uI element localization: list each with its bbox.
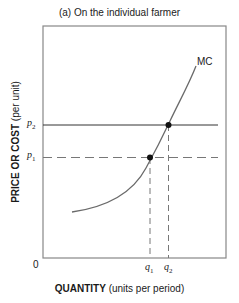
x-axis-label-unit: (units per period) bbox=[109, 283, 185, 294]
origin-label: 0 bbox=[33, 259, 39, 270]
y-axis-label-unit: (per unit) bbox=[10, 81, 21, 121]
p1-tick-label: p1 bbox=[27, 149, 36, 163]
p2-tick-label: p2 bbox=[27, 117, 36, 131]
point-p2-q2 bbox=[166, 122, 172, 128]
q1-subscript: 1 bbox=[150, 267, 154, 275]
x-axis-label-bold: QUANTITY bbox=[55, 283, 106, 294]
p2-subscript: 2 bbox=[32, 123, 36, 131]
q1-tick-label: q1 bbox=[145, 261, 154, 275]
p1-subscript: 1 bbox=[32, 155, 36, 163]
chart-plot bbox=[0, 0, 239, 303]
mc-curve bbox=[72, 66, 196, 212]
y-axis-label: PRICE OR COST (per unit) bbox=[10, 81, 21, 203]
mc-label: MC bbox=[197, 56, 213, 67]
x-axis-label: QUANTITY (units per period) bbox=[0, 283, 239, 294]
q2-tick-label: q2 bbox=[164, 261, 173, 275]
q2-subscript: 2 bbox=[169, 267, 173, 275]
point-p1-q1 bbox=[147, 155, 153, 161]
y-axis-label-bold: PRICE OR COST bbox=[10, 124, 21, 203]
